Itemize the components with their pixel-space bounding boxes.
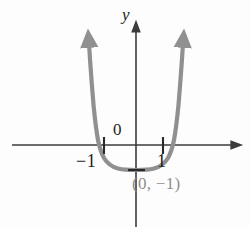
vertex-point-label: (0, −1) bbox=[132, 175, 181, 192]
graph-figure: y 0 −1 1 (0, −1) bbox=[0, 0, 251, 227]
x-tick-label-pos1: 1 bbox=[157, 152, 166, 170]
plot-canvas bbox=[0, 0, 251, 227]
x-tick-label-neg1: −1 bbox=[76, 152, 96, 170]
y-axis-label: y bbox=[122, 6, 130, 23]
origin-label: 0 bbox=[113, 121, 122, 138]
